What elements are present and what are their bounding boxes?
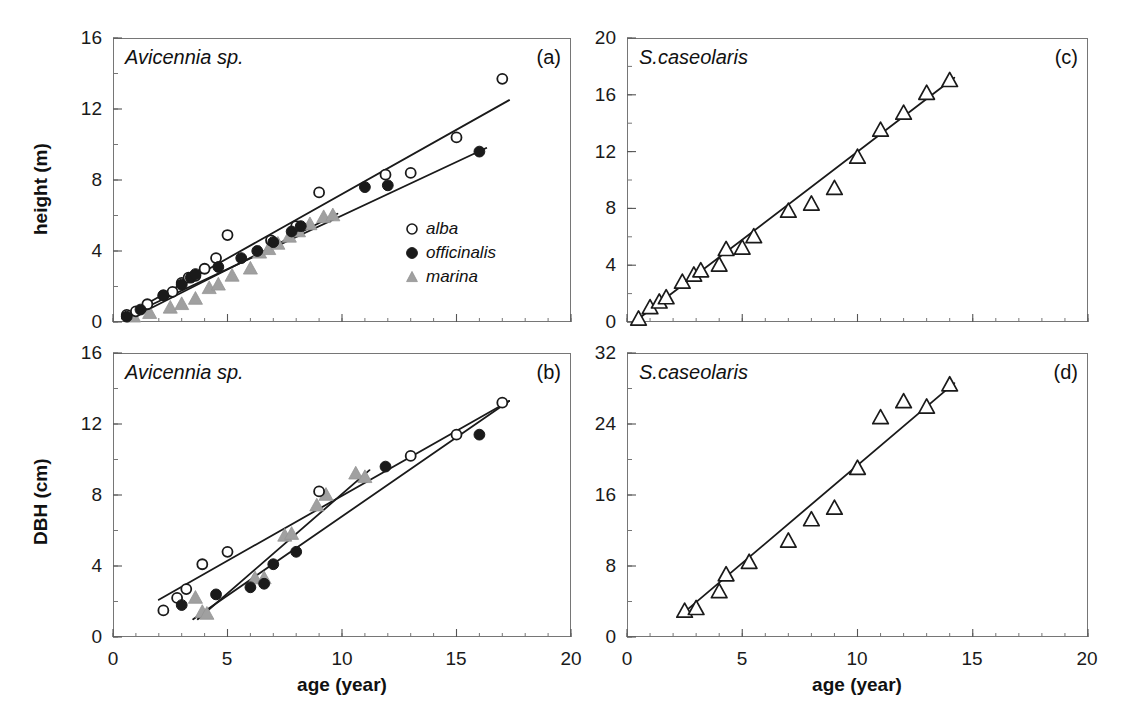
panel-c-ytick-0: 0	[566, 311, 616, 333]
legend-label-alba: alba	[426, 219, 458, 239]
panel-a-ytick-8: 8	[52, 169, 102, 191]
panel-a: Avicennia sp. (a) alba officinalis marin…	[113, 38, 571, 322]
panel-d-plot-area	[627, 353, 1088, 637]
panel-b-species-label: Avicennia sp.	[125, 361, 244, 384]
panel-c-ytick-12: 12	[566, 141, 616, 163]
filled-circle-icon	[403, 244, 421, 262]
panel-b-x-axis-title: age (year)	[242, 674, 442, 696]
panel-c-species-label: S.caseolaris	[639, 46, 748, 69]
panel-b-y-axis-title: DBH (cm)	[30, 458, 52, 545]
panel-a-plot-area	[113, 38, 571, 322]
panel-d-xtick-5: 5	[717, 648, 767, 670]
panel-c-ytick-20: 20	[566, 27, 616, 49]
legend-label-marina: marina	[426, 267, 478, 287]
panel-a-ytick-4: 4	[52, 240, 102, 262]
panel-b-xtick-20: 20	[546, 648, 596, 670]
panel-d-x-axis-title: age (year)	[757, 674, 957, 696]
panel-b-ytick-8: 8	[52, 484, 102, 506]
panel-d: S.caseolaris (d)	[627, 353, 1088, 637]
panel-d-xtick-0: 0	[602, 648, 652, 670]
panel-c: S.caseolaris (c)	[627, 38, 1088, 322]
panel-b-ytick-12: 12	[52, 413, 102, 435]
panel-b-ytick-0: 0	[52, 626, 102, 648]
gray-triangle-icon	[403, 268, 421, 286]
panel-b: Avicennia sp. (b)	[113, 353, 571, 637]
panel-a-legend: alba officinalis marina	[403, 218, 496, 290]
panel-d-xtick-10: 10	[832, 648, 882, 670]
panel-a-y-axis-title: height (m)	[30, 143, 52, 235]
panel-b-plot-area	[113, 353, 571, 637]
open-circle-icon	[403, 220, 421, 238]
panel-d-species-label: S.caseolaris	[639, 361, 748, 384]
panel-b-ytick-4: 4	[52, 555, 102, 577]
figure-canvas: Avicennia sp. (a) alba officinalis marin…	[0, 0, 1142, 722]
panel-b-xtick-0: 0	[88, 648, 138, 670]
panel-b-letter: (b)	[537, 361, 561, 384]
panel-a-ytick-12: 12	[52, 98, 102, 120]
panel-d-ytick-24: 24	[566, 413, 616, 435]
panel-d-letter: (d)	[1054, 361, 1078, 384]
legend-item-marina: marina	[403, 266, 496, 288]
panel-c-letter: (c)	[1055, 46, 1078, 69]
panel-d-ytick-8: 8	[566, 555, 616, 577]
legend-item-alba: alba	[403, 218, 496, 240]
panel-d-ytick-16: 16	[566, 484, 616, 506]
panel-a-letter: (a)	[537, 46, 561, 69]
panel-a-ytick-0: 0	[52, 311, 102, 333]
panel-d-ytick-0: 0	[566, 626, 616, 648]
panel-c-plot-area	[627, 38, 1088, 322]
legend-item-officinalis: officinalis	[403, 242, 496, 264]
panel-b-xtick-15: 15	[431, 648, 481, 670]
panel-c-ytick-8: 8	[566, 197, 616, 219]
panel-d-ytick-32: 32	[566, 342, 616, 364]
panel-c-ytick-16: 16	[566, 84, 616, 106]
panel-d-xtick-20: 20	[1062, 648, 1112, 670]
legend-label-officinalis: officinalis	[426, 243, 496, 263]
panel-a-species-label: Avicennia sp.	[125, 46, 244, 69]
panel-b-ytick-16: 16	[52, 342, 102, 364]
panel-d-xtick-15: 15	[947, 648, 997, 670]
panel-b-xtick-5: 5	[202, 648, 252, 670]
panel-a-ytick-16: 16	[52, 27, 102, 49]
panel-b-xtick-10: 10	[317, 648, 367, 670]
panel-c-ytick-4: 4	[566, 254, 616, 276]
